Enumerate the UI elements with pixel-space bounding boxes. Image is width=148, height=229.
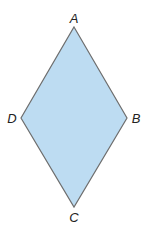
rhombus-abcd (21, 27, 127, 207)
vertex-label-d: D (7, 112, 16, 125)
vertex-label-c: C (69, 211, 78, 224)
vertex-label-a: A (70, 12, 79, 25)
vertex-label-b: B (132, 112, 141, 125)
rhombus-diagram (0, 0, 148, 229)
